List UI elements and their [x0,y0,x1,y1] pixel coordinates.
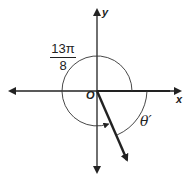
angle-numerator: 13π [50,42,76,58]
angle-label-13pi-over-8: 13π 8 [50,42,76,73]
y-axis-label: y [102,6,108,18]
diagram-graphic [0,0,185,175]
angle-denominator: 8 [50,58,76,73]
reference-angle-label: θ′ [140,113,152,129]
origin-label: O [86,89,95,101]
angle-diagram: y x O 13π 8 θ′ [0,0,185,175]
x-axis-label: x [176,93,182,105]
